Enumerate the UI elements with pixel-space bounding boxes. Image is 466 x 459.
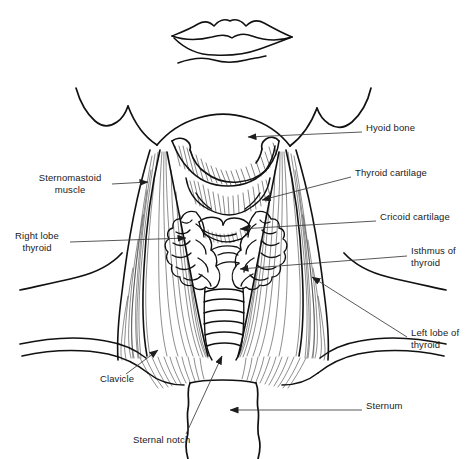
label-thyroid-cartilage: Thyroid cartilage — [355, 167, 427, 179]
label-isthmus-of-thyroid: Isthmus of thyroid — [411, 245, 456, 268]
label-hyoid-bone: Hyoid bone — [366, 122, 415, 134]
label-clavicle: Clavicle — [100, 373, 134, 385]
label-cricoid-cartilage: Cricoid cartilage — [380, 211, 450, 223]
label-left-lobe-of-thyroid: Left lobe of thyroid — [411, 327, 459, 350]
label-right-lobe-thyroid: Right lobe thyroid — [2, 230, 72, 253]
label-sternomastoid-muscle: Sternomastoid muscle — [24, 172, 116, 195]
anatomy-figure: Hyoid bone Thyroid cartilage Cricoid car… — [0, 0, 466, 459]
label-sternal-notch: Sternal notch — [133, 434, 190, 446]
label-sternum: Sternum — [366, 400, 403, 412]
